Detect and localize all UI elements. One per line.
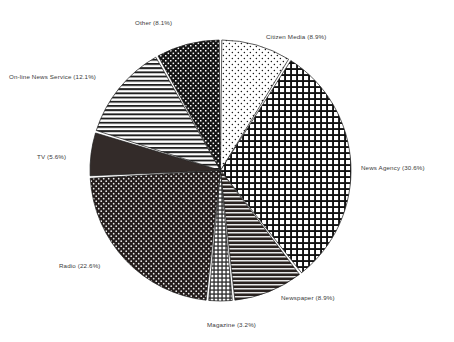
slice-label-radio: Radio (22.6%) xyxy=(59,262,101,270)
slice-label-citizen-media: Citizen Media (8.9%) xyxy=(266,33,326,41)
pie-slices xyxy=(90,40,351,301)
slice-label-magazine: Magazine (3.2%) xyxy=(207,321,256,329)
slice-label-online-news-service: On-line News Service (12.1%) xyxy=(9,73,96,81)
pie-slice-radio xyxy=(90,171,220,301)
slice-label-other: Other (8.1%) xyxy=(135,19,172,27)
pie-chart-figure: Other (8.1%) Citizen Media (8.9%) News A… xyxy=(0,0,454,342)
slice-label-newspaper: Newspaper (8.9%) xyxy=(281,294,335,302)
slice-label-news-agency: News Agency (30.6%) xyxy=(361,164,425,172)
slice-label-tv: TV (5.6%) xyxy=(37,153,66,161)
